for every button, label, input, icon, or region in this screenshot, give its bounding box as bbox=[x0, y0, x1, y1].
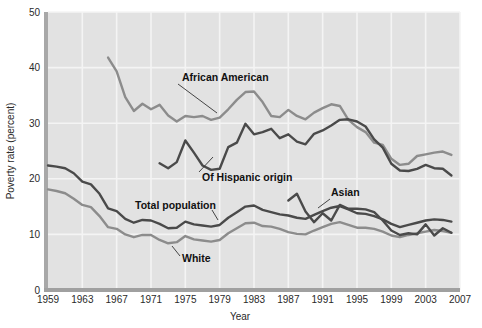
asian-label: Asian bbox=[331, 186, 360, 198]
x-tick-label: 2003 bbox=[415, 294, 438, 305]
y-tick-label: 10 bbox=[29, 229, 41, 240]
x-tick-label: 1999 bbox=[380, 294, 403, 305]
white-label: White bbox=[182, 252, 211, 264]
y-tick-label: 50 bbox=[29, 7, 41, 18]
x-tick-label: 1959 bbox=[37, 294, 60, 305]
x-axis-title: Year bbox=[230, 311, 251, 322]
plot-bottom-axis-line bbox=[44, 288, 460, 292]
x-tick-label: 1987 bbox=[277, 294, 300, 305]
x-tick-label: 1963 bbox=[71, 294, 94, 305]
x-tick-label: 1979 bbox=[209, 294, 232, 305]
y-tick-label: 20 bbox=[29, 173, 41, 184]
y-tick-label: 30 bbox=[29, 118, 41, 129]
plot-area bbox=[44, 12, 460, 292]
y-tick-label: 40 bbox=[29, 62, 41, 73]
x-tick-label: 2007 bbox=[449, 294, 472, 305]
x-tick-label: 1975 bbox=[174, 294, 197, 305]
y-axis-title: Poverty rate (percent) bbox=[5, 103, 16, 200]
poverty-rate-line-chart-figure: 01020304050 1959196319671971197519791983… bbox=[0, 0, 482, 328]
x-tick-label: 1983 bbox=[243, 294, 266, 305]
african-american-label: African American bbox=[182, 71, 269, 83]
x-tick-label: 1991 bbox=[312, 294, 335, 305]
total-population-label: Total population bbox=[135, 199, 216, 211]
chart-canvas: 01020304050 1959196319671971197519791983… bbox=[0, 0, 482, 328]
x-tick-label: 1967 bbox=[106, 294, 129, 305]
hispanic-origin-label: Of Hispanic origin bbox=[202, 171, 292, 183]
x-tick-label: 1971 bbox=[140, 294, 163, 305]
plot-left-axis-line bbox=[44, 12, 48, 292]
x-tick-label: 1995 bbox=[346, 294, 369, 305]
